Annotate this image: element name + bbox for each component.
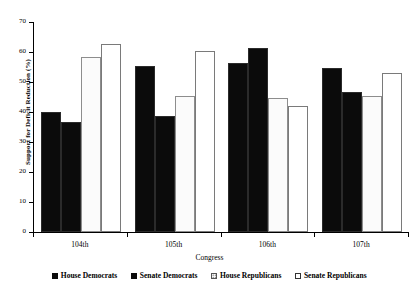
x-axis-label-106th: 106th: [227, 240, 307, 249]
chart-legend: House DemocratsSenate DemocratsHouse Rep…: [0, 271, 419, 280]
x-axis-tick: [33, 233, 34, 237]
bar-senate-republicans-106th: [288, 106, 308, 232]
y-axis-tick-label: 20: [0, 167, 26, 176]
bar-house-democrats-104th: [41, 112, 61, 232]
y-axis-tick: [29, 22, 33, 23]
y-axis-tick-label: 10: [0, 197, 26, 206]
y-axis-tick: [29, 172, 33, 173]
x-axis-title: Congress: [0, 253, 419, 262]
y-axis-tick-label: 70: [0, 17, 26, 26]
y-axis-tick-label: 0: [0, 227, 26, 236]
x-axis-tick: [408, 233, 409, 237]
y-axis-tick: [29, 52, 33, 53]
bar-chart: Support for Deficit Reduction (%) 010203…: [0, 0, 419, 292]
bar-senate-republicans-104th: [101, 44, 121, 232]
legend-item-senate-republicans: Senate Republicans: [295, 271, 366, 280]
y-axis-tick: [29, 142, 33, 143]
bar-senate-democrats-107th: [342, 92, 362, 232]
bar-group-106th: [222, 22, 316, 232]
x-axis-tick: [127, 233, 128, 237]
bar-house-republicans-104th: [81, 57, 101, 232]
legend-item-house-republicans: House Republicans: [211, 271, 281, 280]
y-axis-tick-label: 30: [0, 137, 26, 146]
legend-label: Senate Democrats: [140, 271, 198, 280]
y-axis-tick-label: 50: [0, 77, 26, 86]
y-axis-tick-label: 40: [0, 107, 26, 116]
bar-house-democrats-107th: [322, 68, 342, 232]
x-axis-tick: [221, 233, 222, 237]
bar-senate-democrats-106th: [248, 48, 268, 232]
bar-house-democrats-106th: [228, 63, 248, 232]
bar-house-republicans-107th: [362, 96, 382, 232]
bar-senate-democrats-105th: [155, 116, 175, 232]
legend-label: House Republicans: [220, 271, 281, 280]
y-axis-tick: [29, 112, 33, 113]
legend-swatch-icon: [211, 273, 217, 279]
bar-group-105th: [128, 22, 222, 232]
x-axis-label-104th: 104th: [40, 240, 120, 249]
legend-item-senate-democrats: Senate Democrats: [131, 271, 197, 280]
legend-label: House Democrats: [61, 271, 117, 280]
y-axis-tick: [29, 82, 33, 83]
bar-senate-democrats-104th: [61, 122, 81, 232]
x-axis-tick: [314, 233, 315, 237]
legend-swatch-icon: [295, 273, 301, 279]
bar-group-104th: [34, 22, 128, 232]
legend-swatch-icon: [131, 273, 137, 279]
bar-house-democrats-105th: [135, 66, 155, 232]
legend-item-house-democrats: House Democrats: [52, 271, 117, 280]
bar-group-107th: [315, 22, 409, 232]
x-axis-label-107th: 107th: [321, 240, 401, 249]
bar-senate-republicans-105th: [195, 51, 215, 232]
legend-swatch-icon: [52, 273, 58, 279]
y-axis-tick: [29, 202, 33, 203]
bar-groups: [34, 22, 409, 232]
y-axis-tick-label: 60: [0, 47, 26, 56]
bar-senate-republicans-107th: [382, 73, 402, 232]
legend-label: Senate Republicans: [304, 271, 367, 280]
bar-house-republicans-105th: [175, 96, 195, 232]
x-axis-label-105th: 105th: [134, 240, 214, 249]
plot-area: [33, 22, 409, 233]
bar-house-republicans-106th: [268, 98, 288, 232]
